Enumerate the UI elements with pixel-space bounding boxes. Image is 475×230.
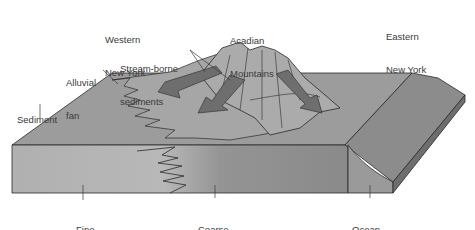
label-acadian-mountains: Acadian Mountains <box>230 13 274 90</box>
label-stream-borne-sediments: Stream-borne sediments <box>120 41 178 118</box>
label-eastern-new-york: Eastern New York <box>386 9 426 86</box>
label-fine-sediment: Fine sediment <box>76 202 115 230</box>
label-ocean-basin: Ocean basin <box>352 202 380 230</box>
front-face <box>12 145 348 193</box>
label-coarse-sediment: Coarse sediment <box>198 202 237 230</box>
label-sediment: Sediment <box>17 92 57 136</box>
label-alluvial-fan: Alluvial fan <box>66 55 96 132</box>
